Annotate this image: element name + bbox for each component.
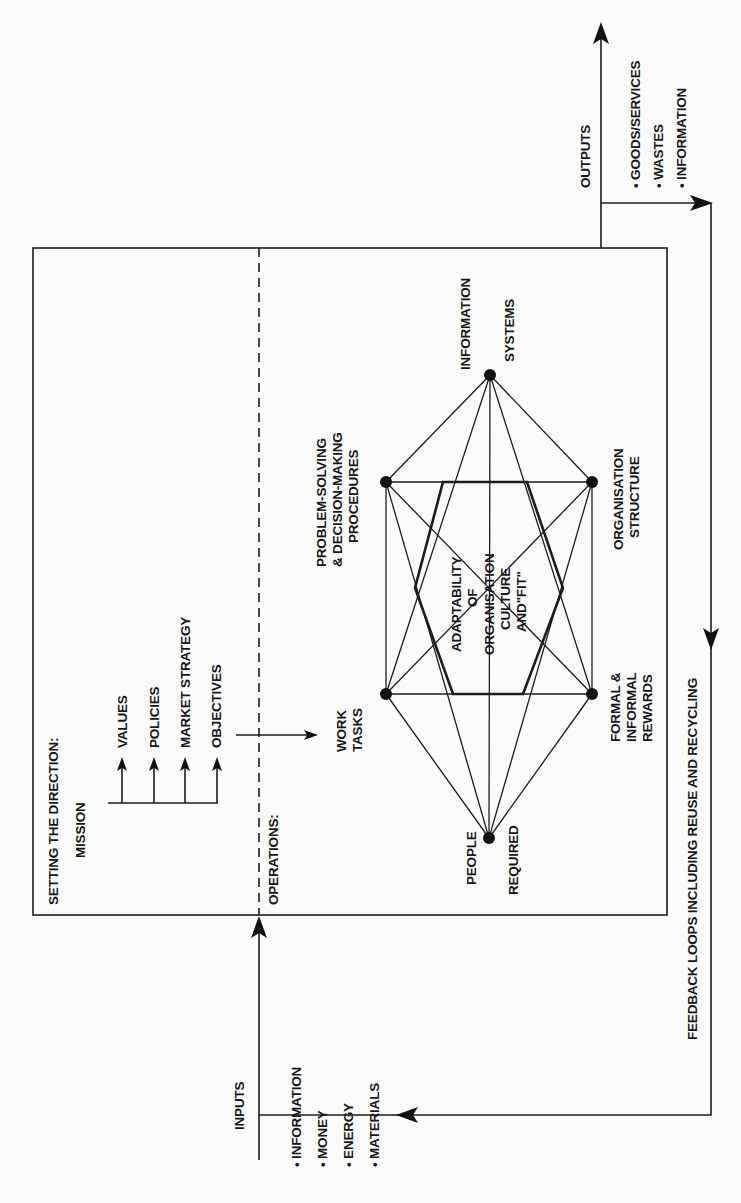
center-culture-label: ADAPTABILITY OF ORGANISATION CULTURE AND… — [449, 553, 529, 655]
node-organisation-structure — [586, 476, 598, 488]
problem-solving-label: PROCEDURES — [346, 450, 361, 543]
policies-label: POLICIES — [147, 686, 162, 748]
outputs-item: • INFORMATION — [674, 88, 689, 188]
inputs-item: • MONEY — [315, 1110, 330, 1167]
formal-rewards-label: REWARDS — [640, 674, 655, 742]
information-systems-label: INFORMATION — [458, 278, 473, 370]
formal-rewards-label: INFORMAL — [624, 672, 639, 742]
outputs-item: • GOODS/SERVICES — [628, 60, 643, 188]
values-label: VALUES — [115, 695, 130, 748]
feedback-label: FEEDBACK LOOPS INCLUDING REUSE AND RECYC… — [685, 678, 700, 1040]
edge — [386, 694, 489, 838]
open-system-diagram: INPUTS • INFORMATION • MONEY • ENERGY • … — [0, 0, 741, 1203]
center-line: CULTURE — [498, 568, 513, 630]
problem-solving-label: & DECISION-MAKING — [330, 432, 345, 567]
edge — [490, 375, 592, 482]
feedback-loop-line — [259, 203, 711, 1115]
edge — [386, 375, 490, 482]
inputs-label: INPUTS — [232, 1082, 247, 1131]
objectives-label: OBJECTIVES — [209, 664, 224, 748]
node-problem-solving — [380, 476, 392, 488]
center-line: ORGANISATION — [482, 553, 497, 655]
system-box — [33, 248, 667, 915]
inputs-item: • ENERGY — [341, 1103, 356, 1167]
mission-label: MISSION — [73, 802, 88, 858]
work-tasks-label: WORK — [334, 710, 349, 752]
setting-direction-heading: SETTING THE DIRECTION: — [46, 738, 61, 905]
organisation-structure-label: ORGANISATION — [611, 448, 626, 550]
outputs-item: • WASTES — [651, 124, 666, 188]
people-required-label: REQUIRED — [506, 825, 521, 895]
center-line: AND"FIT" — [514, 571, 529, 632]
center-line: OF — [465, 589, 480, 607]
node-information-systems — [484, 369, 496, 381]
inputs-group: INPUTS • INFORMATION • MONEY • ENERGY • … — [232, 916, 382, 1167]
outputs-group: OUTPUTS • GOODS/SERVICES • WASTES • INFO… — [578, 22, 713, 248]
inputs-item: • INFORMATION — [289, 1067, 304, 1167]
node-people-required — [483, 832, 495, 844]
people-required-label: PEOPLE — [464, 831, 479, 885]
organisation-structure-label: STRUCTURE — [627, 456, 642, 538]
information-systems-label: SYSTEMS — [502, 299, 517, 362]
problem-solving-label: PROBLEM-SOLVING — [314, 438, 329, 567]
inputs-item: • MATERIALS — [367, 1083, 382, 1167]
node-work-tasks — [380, 688, 392, 700]
operations-section: OPERATIONS: — [266, 278, 655, 905]
center-line: ADAPTABILITY — [449, 556, 464, 652]
node-formal-rewards — [586, 688, 598, 700]
edge — [489, 694, 592, 838]
formal-rewards-label: FORMAL & — [608, 672, 623, 742]
outputs-label: OUTPUTS — [578, 125, 593, 188]
market-strategy-label: MARKET STRATEGY — [178, 617, 193, 748]
operations-heading: OPERATIONS: — [266, 814, 281, 905]
work-tasks-label: TASKS — [350, 708, 365, 752]
